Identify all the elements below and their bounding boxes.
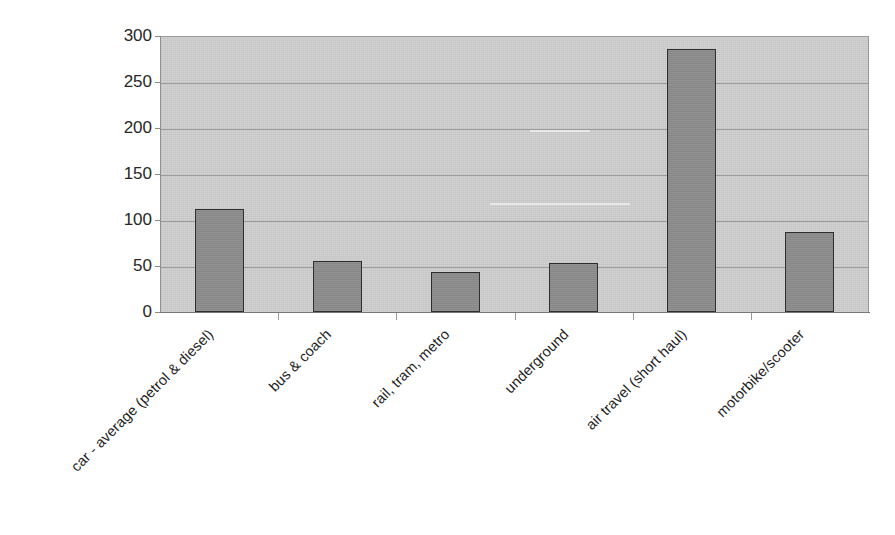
y-axis-tick-label: 0 xyxy=(82,303,152,320)
y-axis-tick-mark xyxy=(155,266,160,267)
plot-area xyxy=(160,36,869,312)
gridline xyxy=(160,83,869,84)
y-axis-tick-mark xyxy=(155,174,160,175)
y-axis-line xyxy=(160,36,161,313)
bar-texture-overlay xyxy=(432,273,479,311)
bar-texture-overlay xyxy=(668,50,715,311)
y-axis-tick-mark xyxy=(155,220,160,221)
bar-texture-overlay xyxy=(196,210,243,311)
bar xyxy=(667,49,716,312)
category-label: car - average (petrol & diesel) xyxy=(68,326,217,475)
gridline xyxy=(160,129,869,130)
gridline xyxy=(160,221,869,222)
category-label: bus & coach xyxy=(266,326,335,395)
y-axis-tick-label: 150 xyxy=(82,165,152,182)
gridline xyxy=(160,175,869,176)
bar xyxy=(785,232,834,312)
bar-texture-overlay xyxy=(786,233,833,311)
y-axis-tick-mark xyxy=(155,36,160,37)
scan-artifact xyxy=(490,203,630,205)
category-label: motorbike/scooter xyxy=(713,326,807,420)
y-axis-tick-label: 200 xyxy=(82,119,152,136)
y-axis-tick-mark xyxy=(155,82,160,83)
scan-artifact xyxy=(530,130,590,132)
x-axis-tick-mark xyxy=(515,313,516,320)
bar-texture-overlay xyxy=(314,262,361,311)
category-label: underground xyxy=(501,326,571,396)
x-axis-tick-mark xyxy=(633,313,634,320)
bar xyxy=(313,261,362,312)
y-axis-tick-label: 100 xyxy=(82,211,152,228)
bar xyxy=(549,263,598,312)
x-axis-tick-mark xyxy=(278,313,279,320)
y-axis-tick-label: 300 xyxy=(82,27,152,44)
category-label: rail, tram, metro xyxy=(368,326,452,410)
bar xyxy=(195,209,244,312)
bar-chart: 300250200150100500 car - average (petrol… xyxy=(0,0,895,535)
category-label: air travel (short haul) xyxy=(583,326,690,433)
y-axis-tick-mark xyxy=(155,312,160,313)
bar-texture-overlay xyxy=(550,264,597,311)
gridline xyxy=(160,267,869,268)
x-axis-tick-mark xyxy=(751,313,752,320)
y-axis-tick-label: 250 xyxy=(82,73,152,90)
y-axis-tick-label: 50 xyxy=(82,257,152,274)
y-axis-tick-mark xyxy=(155,128,160,129)
x-axis-tick-mark xyxy=(396,313,397,320)
bar xyxy=(431,272,480,312)
